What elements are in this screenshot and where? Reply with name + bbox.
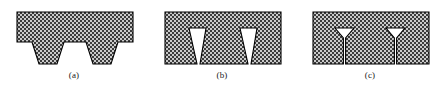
figure-container: (a) (b) (c) [0, 0, 445, 94]
panel-b: (b) [148, 0, 296, 94]
panel-c-material-profile [313, 12, 429, 64]
panel-a-diagram [0, 0, 148, 70]
panel-b-material-profile [165, 12, 281, 64]
panel-a-material-profile [17, 12, 133, 64]
panel-a-caption: (a) [0, 70, 148, 81]
panel-c: (c) [296, 0, 444, 94]
panel-a: (a) [0, 0, 148, 94]
panel-c-caption: (c) [296, 70, 444, 81]
panel-b-caption: (b) [148, 70, 296, 81]
panel-b-diagram [148, 0, 296, 70]
panel-c-diagram [296, 0, 444, 70]
